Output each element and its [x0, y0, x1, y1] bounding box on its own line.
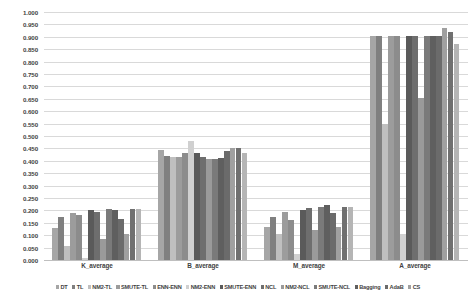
bar-groups: [44, 12, 468, 260]
chart-legend: DTTLNM2-TLSMUTE-TLENN-ENNNM2-ENNSMUTE-EN…: [0, 284, 476, 290]
bar: [424, 36, 429, 260]
y-axis-tick-label: 0.200: [23, 207, 38, 214]
bar: [200, 157, 205, 260]
bar: [324, 205, 329, 260]
y-axis-tick-label: 0.700: [23, 83, 38, 90]
plot-area: [44, 12, 468, 260]
legend-item[interactable]: NM2-NCL: [281, 284, 310, 290]
x-axis-group-label: M_average: [256, 262, 362, 276]
bar-chart: 1.0000.9500.9000.8500.8000.7500.7000.650…: [0, 0, 476, 302]
bar-group-inner: [158, 12, 247, 260]
bar: [176, 157, 181, 260]
legend-item[interactable]: SMUTE-ENN: [220, 284, 256, 290]
legend-label: NM2-NCL: [285, 284, 309, 290]
bar: [406, 36, 411, 260]
bar: [100, 239, 105, 260]
y-axis-tick-label: 0.300: [23, 182, 38, 189]
y-axis-tick-label: 0.350: [23, 170, 38, 177]
bar: [242, 153, 247, 260]
bar: [188, 141, 193, 260]
bar: [264, 227, 269, 260]
legend-label: ENN-ENN: [157, 284, 181, 290]
legend-item[interactable]: SMUTE-TL: [116, 284, 148, 290]
legend-item[interactable]: NM2-ENN: [186, 284, 215, 290]
bar: [282, 212, 287, 260]
legend-item[interactable]: DT: [56, 284, 68, 290]
bar: [336, 227, 341, 260]
bar: [206, 159, 211, 260]
legend-label: TL: [77, 284, 84, 290]
y-axis-tick-label: 0.050: [23, 244, 38, 251]
bar: [224, 151, 229, 260]
bar-group-inner: [370, 12, 459, 260]
legend-swatch-icon: [281, 285, 284, 288]
bar: [294, 254, 299, 260]
bar: [158, 150, 163, 260]
legend-swatch-icon: [116, 285, 119, 288]
bar: [106, 209, 111, 260]
legend-item[interactable]: SMUTE-NCL: [314, 284, 350, 290]
bar: [348, 207, 353, 260]
bar: [218, 158, 223, 260]
bar: [164, 156, 169, 260]
bar: [64, 246, 69, 260]
legend-label: DT: [60, 284, 67, 290]
bar: [70, 213, 75, 260]
y-axis-tick-label: 0.850: [23, 46, 38, 53]
legend-swatch-icon: [186, 285, 189, 288]
bar: [270, 217, 275, 260]
legend-item[interactable]: ENN-ENN: [153, 284, 182, 290]
bar: [448, 32, 453, 260]
legend-item[interactable]: CS: [408, 284, 420, 290]
legend-label: SMUTE-ENN: [224, 284, 256, 290]
bar-group: [150, 12, 256, 260]
y-axis-tick-label: 0.800: [23, 58, 38, 65]
legend-item[interactable]: TL: [72, 284, 83, 290]
legend-item[interactable]: AdaB: [385, 284, 404, 290]
y-axis-tick-label: 0.000: [23, 257, 38, 264]
bar: [212, 159, 217, 260]
bar-group: [362, 12, 468, 260]
x-axis-labels: K_averageB_averageM_averageA_average: [44, 262, 468, 276]
bar: [194, 153, 199, 260]
legend-swatch-icon: [72, 285, 75, 288]
legend-swatch-icon: [314, 285, 317, 288]
y-axis-tick-label: 0.400: [23, 157, 38, 164]
legend-swatch-icon: [220, 285, 223, 288]
bar: [300, 210, 305, 260]
x-axis-group-label: A_average: [362, 262, 468, 276]
y-axis-tick-label: 0.950: [23, 21, 38, 28]
bar: [388, 36, 393, 260]
y-axis-tick-label: 0.600: [23, 108, 38, 115]
y-axis-tick-label: 0.550: [23, 120, 38, 127]
legend-swatch-icon: [153, 285, 156, 288]
bar: [76, 215, 81, 260]
bar: [400, 234, 405, 260]
legend-swatch-icon: [261, 285, 264, 288]
bar: [288, 220, 293, 260]
bar: [442, 28, 447, 260]
bar: [430, 36, 435, 260]
bar: [382, 124, 387, 260]
bar: [330, 213, 335, 260]
legend-swatch-icon: [408, 285, 411, 288]
legend-item[interactable]: NM2-TL: [88, 284, 112, 290]
bar: [370, 36, 375, 260]
legend-label: Bagging: [359, 284, 380, 290]
bar: [130, 209, 135, 260]
y-axis-tick-label: 0.500: [23, 133, 38, 140]
legend-swatch-icon: [88, 285, 91, 288]
bar-group: [256, 12, 362, 260]
bar: [306, 208, 311, 260]
gridline: [44, 260, 468, 261]
legend-item[interactable]: NCL: [261, 284, 277, 290]
y-axis-tick-label: 0.750: [23, 71, 38, 78]
bar: [376, 36, 381, 260]
bar: [118, 219, 123, 260]
y-axis-tick-label: 0.650: [23, 95, 38, 102]
y-axis-tick-label: 0.900: [23, 33, 38, 40]
bar: [124, 234, 129, 260]
y-axis-tick-label: 0.100: [23, 232, 38, 239]
bar: [170, 157, 175, 260]
legend-item[interactable]: Bagging: [355, 284, 381, 290]
